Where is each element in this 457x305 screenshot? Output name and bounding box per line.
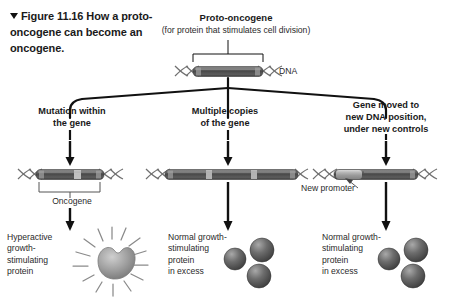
relocated-gene-body — [334, 170, 418, 180]
left-product-arrow — [66, 208, 75, 231]
multiple-gene-copies-body — [165, 170, 298, 180]
branch-heading-mutation: Mutation within the gene — [8, 106, 136, 130]
branch-arrowheads — [66, 157, 391, 166]
product-caption-excess-middle: Normal growth- stimulating protein in ex… — [168, 232, 254, 277]
oncogene-label: Oncogene — [30, 196, 114, 206]
oncogene-gene-body — [36, 170, 104, 180]
figure-number: Figure 11.16 — [21, 10, 83, 22]
dna-helix-top-left — [175, 66, 199, 76]
hyperactive-protein-rays — [73, 227, 148, 296]
hyperactive-protein-blob — [98, 247, 135, 279]
branch-arrow-shafts — [70, 141, 386, 158]
down-triangle-icon — [10, 13, 18, 19]
branch-heading-gene-moved: Gene moved to new DNA position, under ne… — [318, 100, 454, 136]
right-product-arrow — [382, 182, 391, 231]
figure-caption: Figure 11.16 How a proto-oncogene can be… — [10, 9, 160, 57]
proto-oncogene-subtitle: (for protein that stimulates cell divisi… — [152, 25, 320, 35]
product-caption-hyperactive: Hyperactive growth- stimulating protein — [7, 232, 71, 277]
figure-canvas: Figure 11.16 How a proto-oncogene can be… — [0, 0, 457, 305]
dna-helix-mid-right — [295, 169, 308, 179]
mid-product-arrow — [224, 182, 233, 231]
dna-helix-right-left — [313, 169, 337, 179]
dna-helix-mid-left — [146, 169, 170, 179]
dna-label: DNA — [279, 66, 297, 76]
dna-helix-right-right — [413, 169, 437, 179]
dna-helix-left-a — [18, 169, 42, 179]
branch-heading-multiple-copies: Multiple copies of the gene — [160, 106, 290, 130]
proto-oncogene-title: Proto-oncogene — [176, 12, 296, 23]
new-promoter-label: New promoter — [301, 183, 355, 193]
proto-oncogene-gene-body — [193, 67, 263, 77]
dna-helix-left-b — [99, 169, 123, 179]
proto-oncogene-bracket — [193, 40, 263, 62]
product-caption-excess-right: Normal growth- stimulating protein in ex… — [322, 232, 408, 277]
